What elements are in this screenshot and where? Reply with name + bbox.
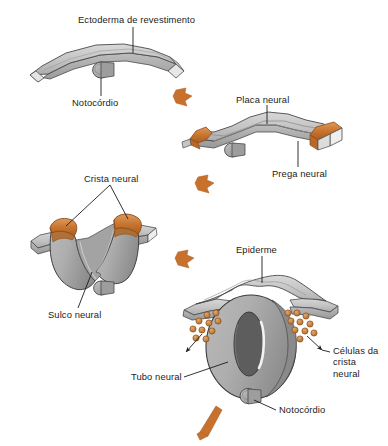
notochord-stage3	[94, 281, 114, 295]
label-celulas-da-crista-neural: Células da crista neural	[333, 345, 378, 379]
leader-celulas-crista	[322, 350, 330, 352]
label-prega-neural: Prega neural	[272, 168, 327, 179]
migration-arrow-right	[307, 336, 322, 350]
transition-arrow-2	[195, 175, 214, 193]
transition-arrow-1	[173, 88, 192, 106]
notochord-stage2	[225, 143, 245, 157]
stage-1-ectoderm-drawing	[30, 27, 184, 96]
label-crista-neural: Crista neural	[84, 173, 138, 184]
label-epiderme: Epiderme	[236, 244, 277, 255]
transition-arrow-4	[197, 406, 222, 440]
stage-3-neural-groove-drawing	[31, 185, 157, 308]
stage-4-neural-tube-drawing	[183, 256, 338, 410]
label-sulco-neural: Sulco neural	[48, 309, 101, 320]
figure-canvas: Ectoderma de revestimento Notocórdio Pla…	[0, 0, 388, 446]
stage-2-neural-plate-drawing	[182, 105, 342, 167]
label-ectoderma-de-revestimento: Ectoderma de revestimento	[78, 14, 195, 25]
leader-notocordio-2	[254, 400, 276, 410]
label-notocordio-stage4: Notocórdio	[279, 404, 325, 415]
label-tubo-neural: Tubo neural	[131, 371, 182, 382]
neurulation-illustration	[0, 0, 388, 446]
label-placa-neural: Placa neural	[236, 94, 289, 105]
notochord-stage1	[93, 62, 114, 78]
label-notocordio-stage1: Notocórdio	[72, 97, 118, 108]
transition-arrow-3	[175, 250, 194, 268]
neural-crest-left	[50, 218, 77, 242]
